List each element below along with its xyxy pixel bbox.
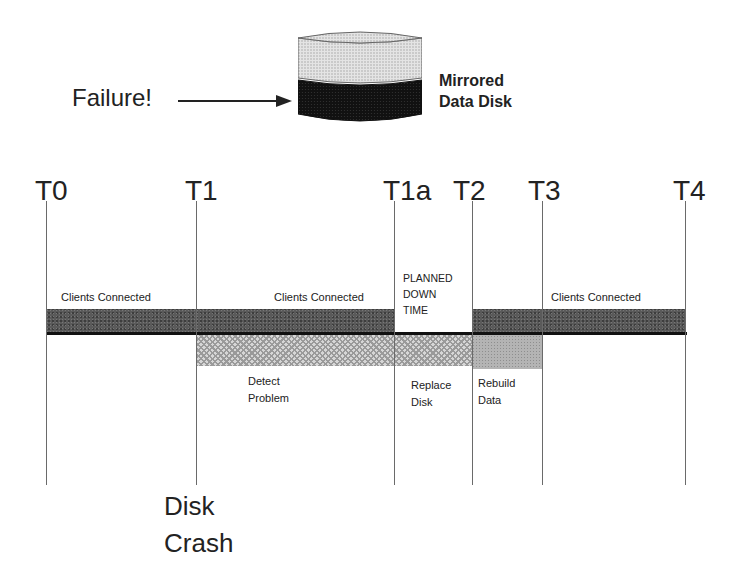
failure-label: Failure! bbox=[72, 84, 152, 112]
planned-downtime-label: PLANNED DOWN TIME bbox=[403, 270, 453, 318]
clients-connected-label-3: Clients Connected bbox=[551, 289, 641, 305]
disk-label-line2: Data Disk bbox=[439, 91, 512, 112]
disk-crash-label: Disk Crash bbox=[164, 488, 233, 562]
clients-connected-bar-1 bbox=[46, 309, 394, 332]
marker-t2-label: T2 bbox=[453, 176, 486, 206]
detect-problem-label: Detect Problem bbox=[248, 373, 289, 407]
marker-t0-line bbox=[46, 201, 47, 485]
planned-line-1: PLANNED bbox=[403, 270, 453, 286]
detect-line-2: Problem bbox=[248, 390, 289, 407]
disk-label: Mirrored Data Disk bbox=[439, 70, 512, 112]
replace-disk-label: Replace Disk bbox=[411, 377, 451, 411]
marker-t3-line bbox=[542, 201, 543, 485]
detect-replace-bar bbox=[196, 335, 472, 366]
marker-t1-line bbox=[196, 201, 197, 485]
marker-t4-label: T4 bbox=[673, 176, 706, 206]
rebuild-line-2: Data bbox=[478, 392, 515, 409]
replace-line-2: Disk bbox=[411, 394, 451, 411]
marker-t1a-label: T1a bbox=[383, 176, 431, 206]
marker-t3-label: T3 bbox=[528, 176, 561, 206]
clients-connected-label-2: Clients Connected bbox=[274, 289, 364, 305]
marker-t4-line bbox=[685, 201, 686, 485]
mirrored-disk-icon bbox=[298, 28, 422, 124]
marker-t0-label: T0 bbox=[35, 176, 68, 206]
crash-line-1: Disk bbox=[164, 488, 233, 525]
right-arrow-icon bbox=[178, 100, 278, 102]
crash-line-2: Crash bbox=[164, 525, 233, 562]
rebuild-data-bar bbox=[472, 335, 542, 369]
arrow-head-icon bbox=[276, 95, 292, 107]
rebuild-data-label: Rebuild Data bbox=[478, 375, 515, 409]
marker-t1-label: T1 bbox=[185, 176, 218, 206]
replace-line-1: Replace bbox=[411, 377, 451, 394]
clients-connected-label-1: Clients Connected bbox=[61, 289, 151, 305]
marker-t1a-line bbox=[394, 201, 395, 485]
planned-line-3: TIME bbox=[403, 302, 453, 318]
clients-connected-bar-2 bbox=[472, 309, 686, 332]
detect-line-1: Detect bbox=[248, 373, 289, 390]
marker-t2-line bbox=[472, 201, 473, 485]
planned-line-2: DOWN bbox=[403, 286, 453, 302]
disk-label-line1: Mirrored bbox=[439, 70, 512, 91]
rebuild-line-1: Rebuild bbox=[478, 375, 515, 392]
